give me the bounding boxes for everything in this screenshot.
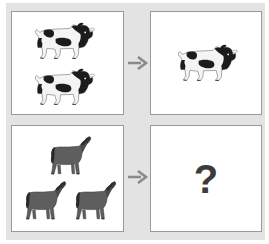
answer-panel[interactable]: ?	[150, 125, 262, 232]
three-horses-panel	[11, 125, 124, 232]
horse-icon	[17, 179, 71, 223]
arrow-right-icon	[127, 168, 149, 186]
cow-icon	[30, 64, 98, 108]
cow-icon	[30, 18, 98, 62]
arrow-right-icon	[127, 54, 149, 72]
visual-analogy-puzzle: ?	[0, 0, 269, 244]
question-mark: ?	[151, 126, 261, 231]
cow-icon	[173, 40, 241, 84]
horse-icon	[67, 179, 121, 223]
two-cows-panel	[11, 11, 124, 115]
horse-icon	[42, 134, 96, 178]
one-cow-panel	[150, 11, 262, 115]
